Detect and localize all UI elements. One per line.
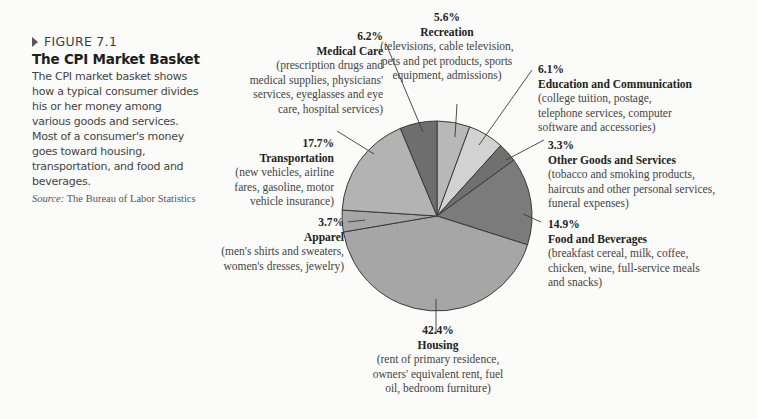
label-housing: 42.4% Housing (rent of primary residence… [366, 323, 510, 396]
label-transportation: 17.7% Transportation (new vehicles, airl… [218, 136, 334, 209]
label-apparel: 3.7% Apparel (men's shirts and sweaters,… [200, 215, 344, 273]
label-medical-care: 6.2% Medical Care (prescription drugs an… [240, 29, 383, 116]
leader-transportation [337, 131, 374, 154]
label-food: 14.9% Food and Beverages (breakfast cere… [548, 217, 708, 290]
label-other-goods: 3.3% Other Goods and Services (tobacco a… [548, 138, 718, 211]
leader-other [506, 140, 544, 160]
label-recreation: 5.6% Recreation (televisions, cable tele… [372, 10, 522, 83]
label-education: 6.1% Education and Communication (colleg… [538, 62, 698, 135]
